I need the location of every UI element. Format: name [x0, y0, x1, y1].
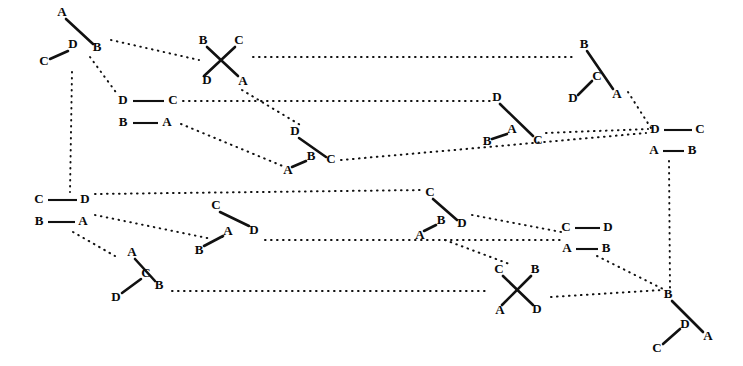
graph-node[interactable]: DCBA: [283, 123, 335, 177]
node-vertex-label: A: [612, 86, 622, 101]
dotted-link: [95, 215, 212, 239]
dotted-link: [597, 256, 665, 290]
node-vertex-label: D: [290, 123, 299, 138]
graph-diagram: ABDCBCDADCBADCBADCABBACDDCABCDBACDABABCD…: [0, 0, 743, 366]
node-vertex-label: B: [199, 32, 208, 47]
node-bond: [50, 51, 68, 59]
node-vertex-label: B: [155, 277, 164, 292]
node-vertex-label: C: [592, 68, 601, 83]
node-bond: [663, 329, 680, 344]
node-vertex-label: C: [695, 121, 704, 136]
node-vertex-label: D: [249, 222, 258, 237]
node-bond: [578, 81, 592, 95]
node-vertex-label: D: [568, 90, 577, 105]
node-vertex-label: A: [649, 142, 659, 157]
node-vertex-label: A: [57, 4, 67, 19]
node-vertex-label: D: [492, 89, 501, 104]
dotted-link: [628, 92, 651, 128]
node-vertex-label: B: [437, 212, 446, 227]
node-vertex-label: D: [603, 219, 612, 234]
dotted-link: [551, 290, 662, 297]
node-vertex-label: B: [35, 213, 44, 228]
dotted-link: [95, 190, 424, 194]
dotted-link: [111, 40, 199, 60]
node-vertex-label: A: [162, 114, 172, 129]
node-vertex-label: A: [223, 223, 233, 238]
node-vertex-label: A: [415, 227, 425, 242]
dotted-link: [90, 57, 118, 95]
graph-node[interactable]: CDBA: [34, 191, 89, 228]
node-vertex-label: C: [141, 265, 150, 280]
node-vertex-label: C: [34, 191, 43, 206]
dotted-link: [669, 161, 670, 288]
graph-node[interactable]: ABCD: [111, 244, 163, 304]
graph-node[interactable]: DCBA: [118, 92, 177, 129]
node-vertex-label: C: [561, 219, 570, 234]
node-bond: [492, 134, 507, 139]
node-vertex-label: B: [119, 114, 128, 129]
dotted-link: [73, 232, 115, 256]
node-vertex-label: C: [234, 32, 243, 47]
node-vertex-label: C: [652, 340, 661, 355]
graph-node[interactable]: BCDA: [199, 32, 249, 88]
node-vertex-label: D: [532, 301, 541, 316]
node-vertex-label: C: [168, 92, 177, 107]
node-vertex-label: B: [531, 261, 540, 276]
node-vertex-label: C: [425, 184, 434, 199]
node-vertex-label: A: [78, 213, 88, 228]
graph-node[interactable]: CDBA: [415, 184, 466, 242]
dotted-link: [546, 129, 648, 133]
node-vertex-label: A: [238, 73, 248, 88]
node-vertex-label: A: [127, 244, 137, 259]
graph-node[interactable]: CDAB: [561, 219, 612, 255]
node-vertex-label: D: [202, 72, 211, 87]
node-bond: [292, 161, 306, 167]
node-vertex-label: D: [80, 191, 89, 206]
graph-node[interactable]: CBAD: [494, 261, 541, 317]
node-vertex-label: A: [495, 302, 505, 317]
node-vertex-label: D: [118, 92, 127, 107]
node-vertex-label: D: [650, 121, 659, 136]
node-vertex-label: A: [562, 240, 572, 255]
node-bond: [424, 225, 436, 231]
node-vertex-label: C: [326, 151, 335, 166]
node-vertex-label: A: [283, 162, 293, 177]
node-vertex-label: B: [580, 36, 589, 51]
node-bond: [122, 279, 141, 293]
node-vertex-label: A: [703, 328, 713, 343]
node-vertex-label: C: [494, 261, 503, 276]
dotted-link: [181, 124, 285, 167]
node-vertex-label: B: [307, 148, 316, 163]
dotted-link: [242, 90, 302, 126]
dotted-link: [472, 215, 561, 232]
node-vertex-label: C: [39, 53, 48, 68]
node-vertex-label: C: [211, 197, 220, 212]
node-vertex-label: B: [483, 133, 492, 148]
dotted-links-layer: [70, 40, 670, 297]
node-vertex-label: B: [195, 242, 204, 257]
node-vertex-label: D: [68, 36, 77, 51]
dotted-link: [70, 72, 72, 192]
node-vertex-label: A: [507, 121, 517, 136]
node-vertex-label: D: [680, 316, 689, 331]
node-vertex-label: C: [533, 132, 542, 147]
node-vertex-label: B: [602, 240, 611, 255]
graph-node[interactable]: CDAB: [195, 197, 259, 257]
node-vertex-label: D: [457, 215, 466, 230]
graph-node[interactable]: DCAB: [483, 89, 543, 148]
dotted-link: [341, 133, 646, 160]
node-vertex-label: B: [664, 286, 673, 301]
graph-node[interactable]: BADC: [652, 286, 713, 355]
node-vertex-label: B: [688, 142, 697, 157]
graph-node[interactable]: ABDC: [39, 4, 101, 68]
node-vertex-label: D: [111, 289, 120, 304]
graph-node[interactable]: DCAB: [649, 121, 704, 157]
graph-node[interactable]: BACD: [568, 36, 622, 105]
node-vertex-label: B: [93, 39, 102, 54]
diagram-canvas: ABDCBCDADCBADCBADCABBACDDCABCDBACDABABCD…: [0, 0, 743, 366]
